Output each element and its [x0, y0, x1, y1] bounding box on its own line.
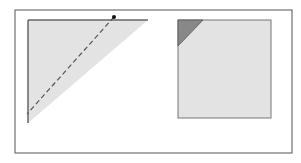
- left-panel: [27, 15, 148, 123]
- endpoint-dot: [112, 15, 116, 19]
- right-panel: [178, 20, 271, 118]
- shaded-square: [178, 20, 271, 118]
- diagram-canvas: [0, 0, 301, 163]
- shaded-right-triangle: [28, 20, 148, 123]
